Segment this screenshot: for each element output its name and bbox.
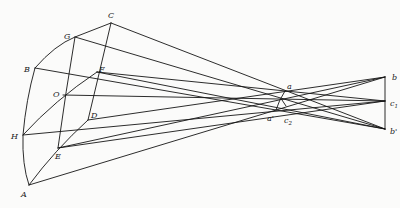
label-B: B [23,65,30,74]
label-H: H [10,132,19,141]
label-a-prime: a' [267,114,274,123]
label-O: O [53,90,60,99]
label-C: C [108,11,114,20]
top-edge-B-G-C [35,23,111,68]
rays [23,23,385,185]
left-edge-B-H-A [23,68,35,185]
object-surface [23,23,111,185]
label-G: G [64,32,71,41]
label-D: D [90,111,98,120]
label-b: b [392,73,397,82]
label-E: E [54,152,61,161]
optics-diagram: C G B F O D H E A a a' c2 b c1 b' [0,0,400,208]
label-c1: c1 [390,99,398,109]
label-b-prime: b' [390,127,397,136]
label-c2: c2 [284,116,292,126]
label-A: A [20,190,27,199]
label-a: a [287,82,292,91]
label-F: F [98,65,105,74]
arc-H-O-F [23,72,97,135]
c2-leader [282,100,286,106]
diagram-svg: C G B F O D H E A a a' c2 b c1 b' [0,0,400,208]
